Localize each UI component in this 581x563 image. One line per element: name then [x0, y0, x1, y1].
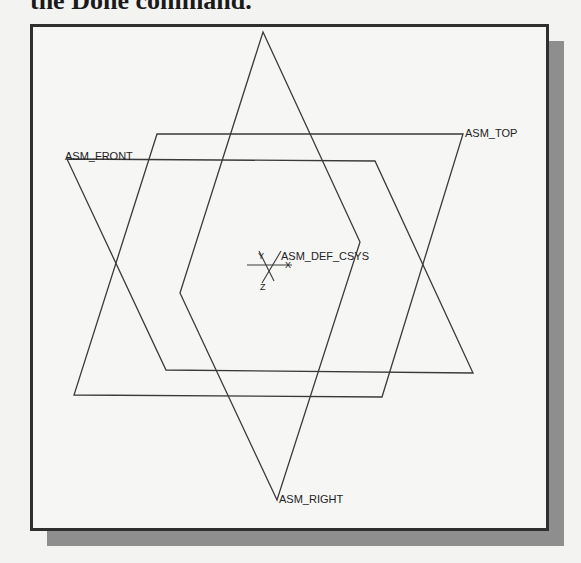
datum-plane-asm-right[interactable]	[180, 32, 360, 500]
label-asm-front[interactable]: ASM_FRONT	[65, 150, 133, 162]
label-asm-top[interactable]: ASM_TOP	[465, 127, 517, 139]
label-asm-right[interactable]: ASM_RIGHT	[279, 493, 343, 505]
csys-z-axis-label: Z	[260, 282, 266, 292]
datum-plane-asm-front[interactable]	[67, 159, 473, 373]
datum-drawing[interactable]: ASM_TOP ASM_FRONT ASM_RIGHT Y X Z ASM_DE…	[0, 0, 581, 563]
csys-y-axis-label: Y	[258, 251, 264, 261]
label-asm-def-csys[interactable]: ASM_DEF_CSYS	[281, 250, 369, 262]
